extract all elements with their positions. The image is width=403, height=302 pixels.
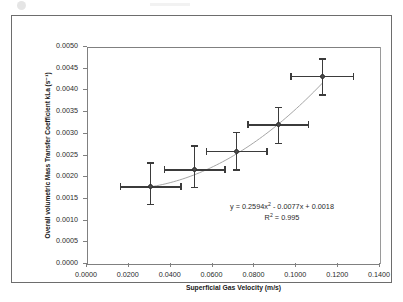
x-error-bar-cap xyxy=(224,166,225,173)
x-tick-mark xyxy=(212,263,213,267)
plot-area xyxy=(87,47,380,264)
x-error-bar-cap xyxy=(266,148,267,155)
x-tick-mark xyxy=(337,263,338,267)
equation-suffix: - 0.0077x + 0.0018 xyxy=(271,202,334,211)
y-error-bar-cap xyxy=(191,145,198,146)
y-tick-label: 0.0035 xyxy=(32,107,78,115)
x-tick-label: 0.0600 xyxy=(188,271,236,279)
x-error-bar-cap xyxy=(120,183,121,190)
y-tick-label: 0.0030 xyxy=(32,129,78,137)
x-tick-label: 0.1200 xyxy=(313,271,361,279)
x-tick-mark xyxy=(295,263,296,267)
equation-text: y = 0.2594x2 - 0.0077x + 0.0018 xyxy=(208,201,356,212)
scan-artifact-icon xyxy=(17,1,26,10)
trendline-equation-annotation: y = 0.2594x2 - 0.0077x + 0.0018 R2 = 0.9… xyxy=(208,201,356,223)
x-tick-label: 0.0000 xyxy=(62,271,110,279)
y-tick-label: 0.0005 xyxy=(32,237,78,245)
y-error-bar-cap xyxy=(191,187,198,188)
x-error-bar-cap xyxy=(164,166,165,173)
y-tick-label: 0.0040 xyxy=(32,85,78,93)
x-error-bar-cap xyxy=(353,73,354,80)
r-squared-text: R2 = 0.995 xyxy=(208,212,356,223)
x-tick-label: 0.1400 xyxy=(355,271,403,279)
y-tick-label: 0.0015 xyxy=(32,194,78,202)
x-error-bar-cap xyxy=(247,121,248,128)
y-error-bar-cap xyxy=(275,107,282,108)
plot-right-border xyxy=(380,47,381,264)
y-error-bar-cap xyxy=(319,58,326,59)
y-tick-label: 0.0010 xyxy=(32,216,78,224)
x-tick-mark xyxy=(86,263,87,267)
y-tick-label: 0.0000 xyxy=(32,259,78,267)
x-tick-label: 0.0800 xyxy=(229,271,277,279)
x-tick-mark xyxy=(128,263,129,267)
x-tick-label: 0.0200 xyxy=(104,271,152,279)
equation-prefix: y = 0.2594x xyxy=(230,202,268,211)
x-error-bar-cap xyxy=(180,183,181,190)
x-error-bar-cap xyxy=(308,121,309,128)
data-point-marker xyxy=(320,74,325,79)
x-axis-line xyxy=(87,264,380,265)
chart-page: Overall volumetric Mass Transfer Coeffic… xyxy=(0,0,403,302)
y-error-bar-cap xyxy=(147,204,154,205)
y-error-bar-cap xyxy=(147,162,154,163)
y-error-bar-cap xyxy=(275,143,282,144)
x-error-bar-cap xyxy=(206,148,207,155)
x-tick-mark xyxy=(253,263,254,267)
x-axis-title: Superficial Gas Velocity (m/s) xyxy=(87,284,380,291)
trendline xyxy=(88,48,381,265)
x-tick-mark xyxy=(170,263,171,267)
x-tick-label: 0.0400 xyxy=(146,271,194,279)
x-error-bar-cap xyxy=(290,73,291,80)
y-tick-label: 0.0025 xyxy=(32,151,78,159)
y-error-bar-cap xyxy=(319,94,326,95)
y-tick-label: 0.0020 xyxy=(32,172,78,180)
y-tick-label: 0.0050 xyxy=(32,42,78,50)
chart-frame: Overall volumetric Mass Transfer Coeffic… xyxy=(11,15,392,283)
y-error-bar-cap xyxy=(233,132,240,133)
x-tick-mark xyxy=(379,263,380,267)
r-squared-suffix: = 0.995 xyxy=(273,213,300,222)
y-error-bar-cap xyxy=(233,169,240,170)
x-tick-label: 0.1000 xyxy=(271,271,319,279)
scan-artifact-streak xyxy=(150,3,190,6)
y-tick-label: 0.0045 xyxy=(32,64,78,72)
data-point-marker xyxy=(234,149,239,154)
